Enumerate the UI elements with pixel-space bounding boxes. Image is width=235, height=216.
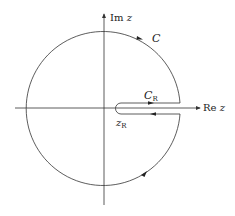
point-label-zR: zR [116, 118, 127, 130]
real-label-prefix: Re [203, 102, 216, 113]
real-label-var: z [220, 102, 225, 113]
contour-label-CR: CR [144, 90, 158, 103]
imag-label-var: z [127, 12, 132, 23]
direction-arrow-lower [150, 112, 156, 115]
imag-label-prefix: Im [110, 12, 123, 23]
real-axis-label: Re z [203, 103, 225, 113]
contour-label-C: C [152, 33, 160, 44]
inner-contour-CR [116, 103, 122, 114]
outer-contour-C [26, 32, 180, 186]
zr-sub: R [121, 122, 126, 130]
imaginary-axis-label: Im z [110, 13, 132, 23]
keyhole-contour-diagram [0, 0, 235, 216]
cr-sub: R [152, 95, 157, 103]
direction-arrow-bottom [141, 171, 147, 177]
direction-arrow-top [137, 36, 144, 40]
